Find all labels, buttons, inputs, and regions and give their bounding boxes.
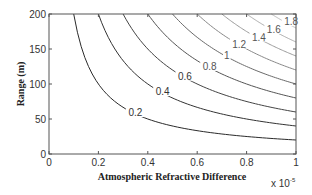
y-tick-label: 200 xyxy=(29,9,46,20)
x-exponent-label: x 10-5 xyxy=(271,177,296,189)
contour-label: 0.6 xyxy=(178,71,192,82)
x-tick-label: 0.8 xyxy=(240,157,254,168)
y-axis-title: Range (m) xyxy=(15,62,27,107)
x-tick-label: 1 xyxy=(293,157,299,168)
contour-label: 1.6 xyxy=(267,24,281,35)
y-tick-label: 50 xyxy=(35,114,47,125)
contour-label: 0.4 xyxy=(156,86,170,97)
contour-label: 1.4 xyxy=(252,32,266,43)
contour-chart: 0.20.40.60.811.21.41.61.8 00.20.40.60.81… xyxy=(0,0,312,195)
contour-labels: 0.20.40.60.811.21.41.61.8 xyxy=(126,16,301,118)
contour-label: 0.8 xyxy=(203,61,217,72)
contour-label: 0.2 xyxy=(128,107,142,118)
x-tick-label: 0.4 xyxy=(141,157,155,168)
contour-label: 1.2 xyxy=(232,39,246,50)
x-axis-title: Atmospheric Refractive Difference xyxy=(98,171,247,182)
x-tick-label: 0.6 xyxy=(190,157,204,168)
x-tick-label: 0 xyxy=(46,157,52,168)
x-tick-label: 0.2 xyxy=(91,157,105,168)
contour-label: 1 xyxy=(224,50,230,61)
y-tick-label: 100 xyxy=(29,79,46,90)
y-tick-label: 150 xyxy=(29,44,46,55)
y-tick-label: 0 xyxy=(40,149,46,160)
